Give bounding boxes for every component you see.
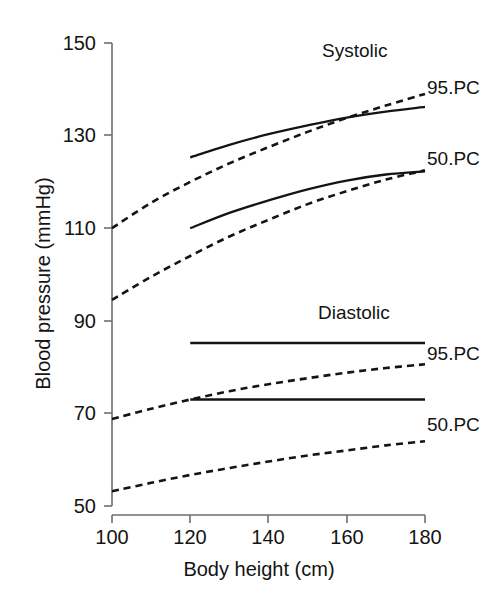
series-label-diastolic-50pc: 50.PC [427, 414, 480, 436]
series-label-systolic-95pc: 95.PC [427, 77, 480, 99]
annotation-systolic: Systolic [322, 40, 387, 62]
series-systolic-50-pc-dashed [112, 170, 425, 300]
y-axis-ticks [104, 43, 112, 506]
series-label-systolic-50pc: 50.PC [427, 148, 480, 170]
x-tick-label-100: 100 [82, 526, 142, 549]
y-tick-label-150: 150 [36, 32, 96, 55]
series-label-diastolic-95pc: 95.PC [427, 343, 480, 365]
x-tick-label-180: 180 [395, 526, 455, 549]
x-tick-label-120: 120 [160, 526, 220, 549]
y-tick-label-130: 130 [36, 124, 96, 147]
data-series-group [112, 94, 425, 491]
series-diastolic-50-pc-dashed [112, 441, 425, 491]
blood-pressure-chart: 150 130 110 90 70 50 100 120 140 160 180… [0, 0, 503, 607]
series-systolic-95-pc-dashed [112, 94, 425, 228]
y-axis-title: Blood pressure (mmHg) [32, 154, 55, 414]
x-axis-title: Body height (cm) [112, 558, 406, 581]
annotation-diastolic: Diastolic [318, 302, 390, 324]
series-diastolic-95-pc-dashed [112, 364, 425, 419]
x-axis-ticks [112, 515, 425, 523]
x-tick-label-140: 140 [238, 526, 298, 549]
y-tick-label-50: 50 [36, 495, 96, 518]
x-tick-label-160: 160 [317, 526, 377, 549]
